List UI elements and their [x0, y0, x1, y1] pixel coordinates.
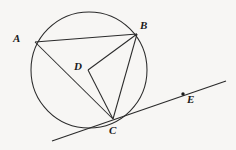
point-label-b: B — [140, 20, 147, 31]
tangent-line-CE — [52, 81, 226, 141]
segment-AC — [35, 42, 113, 119]
segment-DB — [88, 34, 137, 70]
segment-BC — [113, 34, 137, 119]
segment-AB — [35, 34, 137, 42]
point-E-dot — [181, 92, 184, 95]
geometry-canvas — [0, 0, 236, 150]
segment-DC — [88, 70, 113, 119]
point-label-d: D — [74, 61, 82, 72]
geometry-figure: A B D C E — [0, 0, 236, 150]
circle-D — [31, 12, 147, 128]
point-label-a: A — [13, 33, 20, 44]
point-label-c: C — [109, 125, 116, 136]
point-label-e: E — [187, 94, 194, 105]
